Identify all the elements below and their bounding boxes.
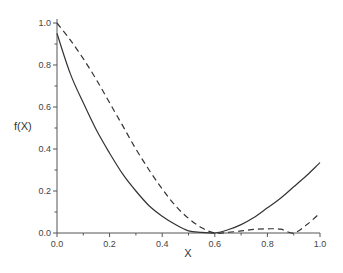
axes: 0.00.20.40.60.81.00.00.20.40.60.81.0 bbox=[38, 18, 326, 249]
x-axis-label: X bbox=[184, 247, 192, 259]
y-axis-label: f(X) bbox=[14, 120, 32, 132]
x-tick-label: 0.8 bbox=[261, 239, 274, 249]
plot-lines bbox=[57, 23, 320, 233]
y-tick-label: 0.2 bbox=[38, 186, 51, 196]
x-tick-label: 0.6 bbox=[209, 239, 222, 249]
y-tick-label: 1.0 bbox=[38, 18, 51, 28]
y-tick-label: 0.0 bbox=[38, 228, 51, 238]
y-tick-label: 0.8 bbox=[38, 60, 51, 70]
y-tick-label: 0.6 bbox=[38, 102, 51, 112]
x-tick-label: 0.0 bbox=[51, 239, 64, 249]
x-tick-label: 0.4 bbox=[156, 239, 169, 249]
dashed-line bbox=[57, 23, 320, 233]
x-tick-label: 0.2 bbox=[103, 239, 116, 249]
chart: 0.00.20.40.60.81.00.00.20.40.60.81.0 X f… bbox=[0, 0, 343, 273]
solid-line bbox=[57, 34, 320, 234]
y-tick-label: 0.4 bbox=[38, 144, 51, 154]
x-tick-label: 1.0 bbox=[314, 239, 327, 249]
